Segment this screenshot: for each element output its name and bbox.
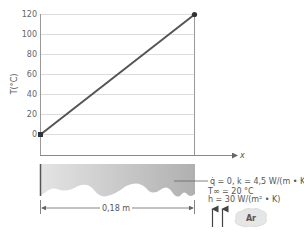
svg-text:100: 100 <box>22 30 37 39</box>
wall-slab <box>40 164 195 197</box>
heat-generation-conductivity-label: q̇ = 0, k = 4,5 W/(m • K) <box>210 177 304 186</box>
air-cloud-icon: Ar <box>235 208 267 226</box>
svg-text:0: 0 <box>32 130 37 139</box>
svg-text:60: 60 <box>27 70 37 79</box>
y-axis-label: T(°C) <box>10 74 19 96</box>
convection-coefficient-label: h = 30 W/(m² • K) <box>208 195 280 204</box>
svg-text:20: 20 <box>27 110 37 119</box>
start-point-marker <box>38 132 43 137</box>
y-tick-labels: 120 100 80 60 40 20 0 <box>22 10 37 139</box>
svg-text:80: 80 <box>27 50 37 59</box>
end-point-marker <box>192 12 197 17</box>
x-axis-label: x <box>239 151 245 160</box>
svg-text:40: 40 <box>27 90 37 99</box>
svg-text:120: 120 <box>22 10 37 19</box>
temperature-profile-diagram: x 120 100 80 60 40 20 0 T(°C) 0,18 m q̇ … <box>0 0 304 239</box>
length-dimension: 0,18 m <box>41 200 195 214</box>
air-label: Ar <box>246 214 256 223</box>
length-label: 0,18 m <box>102 204 130 213</box>
